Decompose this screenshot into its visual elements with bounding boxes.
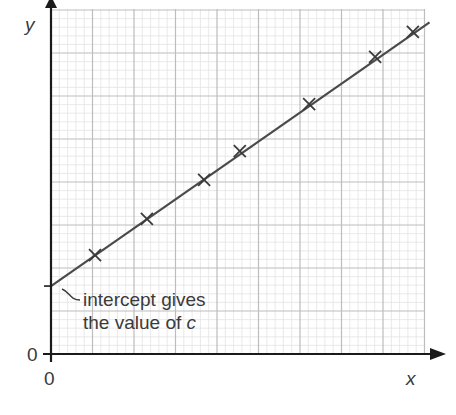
intercept-annotation: intercept gives the value of c bbox=[83, 288, 206, 334]
annotation-line-2: the value of c bbox=[83, 311, 206, 334]
annotation-line-1: intercept gives bbox=[83, 288, 206, 311]
annotation-variable-c: c bbox=[187, 312, 197, 333]
chart-canvas bbox=[0, 0, 456, 415]
x-axis-label: x bbox=[406, 368, 416, 390]
y-origin-label: 0 bbox=[27, 344, 38, 366]
annotation-pointer bbox=[62, 289, 80, 300]
x-axis-arrow-icon bbox=[430, 348, 446, 360]
y-axis-label: y bbox=[25, 14, 35, 36]
y-axis-arrow-icon bbox=[45, 0, 57, 8]
x-origin-label: 0 bbox=[44, 368, 55, 390]
